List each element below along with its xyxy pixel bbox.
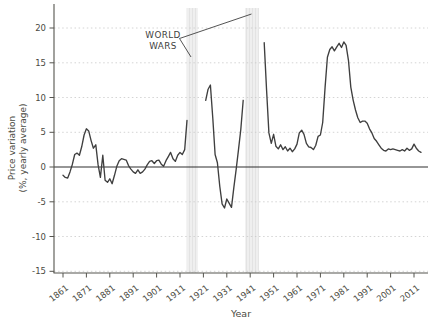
x-tick-label: 1991 xyxy=(351,283,374,304)
x-tick-label: 1941 xyxy=(234,283,257,304)
x-tick-label: 1921 xyxy=(187,283,210,304)
world-wars-annotation-line2: WARS xyxy=(144,41,182,52)
chart-canvas: 20151050-5-10-15186118711881189119011911… xyxy=(0,0,434,327)
price-variation-series-line xyxy=(63,120,187,183)
y-tick-label: -5 xyxy=(38,197,46,207)
x-tick-label: 1871 xyxy=(70,283,93,304)
x-axis-title: Year xyxy=(54,308,428,319)
price-variation-series-line xyxy=(206,85,244,208)
world-wars-annotation-line1: WORLD xyxy=(144,30,182,41)
x-tick-label: 1881 xyxy=(94,283,117,304)
x-tick-label: 1911 xyxy=(164,283,187,304)
x-tick-label: 1961 xyxy=(281,283,304,304)
y-tick-label: 20 xyxy=(35,23,46,33)
x-tick-label: 1951 xyxy=(258,283,281,304)
y-tick-label: -15 xyxy=(32,266,46,276)
war-band xyxy=(187,8,198,273)
x-tick-label: 1901 xyxy=(141,283,164,304)
x-tick-label: 1861 xyxy=(47,283,70,304)
x-tick-label: 1971 xyxy=(304,283,327,304)
y-tick-label: 0 xyxy=(41,162,46,172)
x-tick-label: 2001 xyxy=(375,283,398,304)
y-tick-label: 15 xyxy=(35,58,46,68)
war-band xyxy=(245,8,259,273)
world-wars-annotation: WORLD WARS xyxy=(144,30,182,51)
x-tick-label: 1931 xyxy=(211,283,234,304)
x-tick-label: 1981 xyxy=(328,283,351,304)
y-tick-label: -10 xyxy=(32,232,46,242)
y-axis-title-line2: (%, yearly average) xyxy=(18,104,29,193)
y-tick-label: 10 xyxy=(35,93,46,103)
y-axis-title: Price variation (%, yearly average) xyxy=(7,104,29,193)
x-tick-label: 2011 xyxy=(398,283,421,304)
y-tick-label: 5 xyxy=(41,127,46,137)
y-axis-title-line1: Price variation xyxy=(7,104,18,193)
price-variation-line-chart: 20151050-5-10-15186118711881189119011911… xyxy=(0,0,434,327)
x-tick-label: 1891 xyxy=(117,283,140,304)
